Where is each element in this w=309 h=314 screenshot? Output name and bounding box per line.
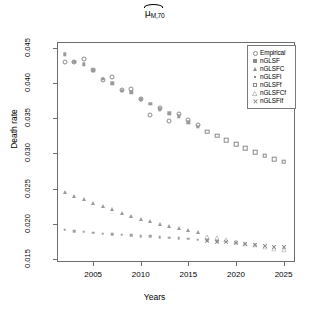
data-point: [205, 129, 210, 134]
legend-item-nglsff[interactable]: nGLSFf: [250, 81, 293, 89]
marker-filled-triangle-icon: [82, 197, 86, 201]
legend-marker: [250, 65, 260, 73]
legend-marker: [250, 49, 260, 57]
marker-cross-x-icon: [214, 239, 219, 244]
data-point: [158, 222, 162, 226]
data-point: [224, 138, 229, 143]
y-axis-label: Death rate: [9, 89, 19, 169]
marker-open-square-icon: [253, 150, 258, 155]
data-point: [91, 69, 94, 72]
hat-accent: [144, 4, 164, 8]
marker-filled-square-icon: [130, 91, 133, 94]
marker-cross-x-icon: [272, 244, 277, 249]
marker-open-square-icon: [262, 153, 267, 158]
data-point: [187, 238, 190, 241]
marker-open-square-icon: [243, 146, 248, 151]
data-point: [139, 217, 143, 221]
data-point: [159, 236, 162, 239]
marker-filled-square-small-icon: [120, 233, 123, 236]
marker-open-circle-icon: [253, 51, 258, 56]
legend-item-nglsfc[interactable]: nGLSFC: [250, 65, 293, 73]
data-point: [148, 219, 152, 223]
marker-filled-triangle-icon: [72, 194, 76, 198]
y-axis-tick-label: 0.015: [23, 238, 32, 278]
marker-open-circle-icon: [167, 119, 172, 124]
data-point: [262, 243, 267, 248]
data-point: [167, 119, 172, 124]
marker-filled-square-small-icon: [139, 235, 142, 238]
marker-filled-square-small-icon: [82, 230, 85, 233]
marker-filled-triangle-icon: [120, 211, 124, 215]
marker-cross-x-icon: [224, 240, 229, 245]
marker-filled-square-icon: [111, 81, 114, 84]
y-axis-tick-label: 0.020: [23, 203, 32, 243]
marker-filled-triangle-icon: [158, 222, 162, 226]
data-point: [187, 121, 190, 124]
chart-container: μM,70 Death rate Years 0.0150.0200.0250.…: [0, 0, 309, 314]
marker-open-square-icon: [224, 138, 229, 143]
data-point: [130, 91, 133, 94]
legend-marker: [250, 57, 260, 65]
title-mu-subscript: M,70: [151, 12, 165, 19]
marker-cross-x-icon: [205, 238, 210, 243]
marker-filled-triangle-icon: [91, 201, 95, 205]
legend-marker: [250, 89, 260, 97]
data-point: [233, 241, 238, 246]
legend-item-nglsfi[interactable]: nGLSFI: [250, 73, 293, 81]
data-point: [205, 238, 210, 243]
marker-filled-square-icon: [101, 77, 104, 80]
marker-filled-square-icon: [139, 98, 142, 101]
marker-filled-triangle-icon: [196, 230, 200, 234]
legend-item-nglsfif[interactable]: nGLSFIf: [250, 97, 293, 105]
legend-marker: [250, 73, 260, 81]
data-point: [234, 142, 239, 147]
data-point: [139, 98, 142, 101]
legend-item-empirical[interactable]: Empirical: [250, 49, 293, 57]
x-axis-tick-label: 2020: [216, 270, 256, 279]
marker-filled-square-small-icon: [130, 234, 133, 237]
marker-open-triangle-icon: [252, 91, 257, 96]
data-point: [197, 238, 200, 241]
marker-filled-square-small-icon: [187, 238, 190, 241]
legend-item-nglsf[interactable]: nGLSF: [250, 57, 293, 65]
marker-filled-square-icon: [177, 114, 180, 117]
marker-filled-square-small-icon: [111, 233, 114, 236]
data-point: [214, 239, 219, 244]
legend-item-nglsfcf[interactable]: nGLSFCf: [250, 89, 293, 97]
data-point: [178, 237, 181, 240]
legend-label: nGLSFf: [260, 81, 281, 89]
data-point: [91, 201, 95, 205]
data-point: [81, 56, 86, 61]
y-axis-tick-label: 0.040: [23, 63, 32, 103]
legend-label: nGLSFCf: [260, 89, 286, 97]
legend-label: nGLSFI: [260, 73, 281, 81]
data-point: [73, 230, 76, 233]
marker-filled-triangle-icon: [129, 214, 133, 218]
data-point: [129, 214, 133, 218]
data-point: [63, 190, 67, 194]
data-point: [281, 160, 286, 165]
x-axis-tick: [188, 262, 189, 266]
data-point: [149, 102, 152, 105]
marker-filled-square-small-icon: [159, 236, 162, 239]
marker-filled-square-small-icon: [168, 236, 171, 239]
chart-legend: EmpiricalnGLSFnGLSFCnGLSFInGLSFfnGLSFCfn…: [247, 45, 296, 109]
data-point: [253, 242, 258, 247]
marker-filled-square-small-icon: [149, 235, 152, 238]
data-point: [168, 236, 171, 239]
data-point: [92, 232, 95, 235]
data-point: [262, 153, 267, 158]
marker-filled-square-icon: [72, 60, 75, 63]
legend-label: Empirical: [260, 49, 285, 57]
marker-cross-x-icon: [253, 99, 258, 104]
data-point: [82, 230, 85, 233]
data-point: [224, 240, 229, 245]
legend-label: nGLSFIf: [260, 97, 283, 105]
data-point: [101, 232, 104, 235]
marker-cross-x-icon: [243, 241, 248, 246]
data-point: [139, 235, 142, 238]
marker-filled-triangle-icon: [167, 224, 171, 228]
x-axis-tick: [284, 262, 285, 266]
x-axis-tick: [141, 262, 142, 266]
data-point: [167, 224, 171, 228]
